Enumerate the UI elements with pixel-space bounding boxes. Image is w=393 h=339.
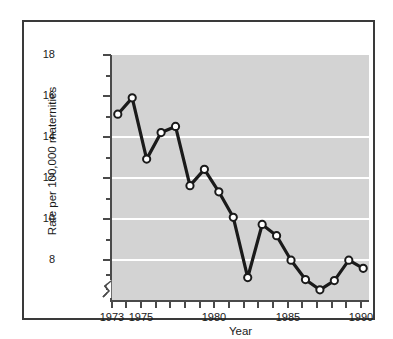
y-axis-title: Rate per 100,000 maternities [46, 76, 58, 246]
data-point-1974 [129, 94, 136, 101]
x-tick-label-1985: 1985 [265, 311, 311, 323]
y-tick-label-18: 18 [15, 49, 55, 60]
x-tick-1980 [213, 301, 215, 308]
x-tick-1986 [301, 301, 303, 308]
figure-canvas: 18 16 14 12 10 8 1973 1975 1 [0, 0, 393, 339]
chart-frame: 18 16 14 12 10 8 1973 1975 1 [22, 20, 375, 320]
data-point-1988 [331, 277, 338, 284]
y-tick-minor-17 [106, 75, 111, 77]
x-tick-1976 [155, 301, 157, 308]
x-tick-1985 [287, 301, 289, 308]
x-tick-label-1980: 1980 [191, 311, 237, 323]
y-tick-18 [103, 54, 111, 56]
x-tick-1975 [140, 301, 142, 308]
y-tick-minor-15 [106, 116, 111, 118]
plot-area [112, 55, 369, 300]
data-point-1976 [157, 129, 164, 136]
x-axis-title: Year [112, 325, 369, 337]
data-series-line [112, 55, 369, 300]
y-tick-16 [103, 95, 111, 97]
x-tick-1983 [257, 301, 259, 308]
data-point-1982 [244, 274, 251, 281]
x-tick-1987 [316, 301, 318, 308]
data-point-1979 [201, 166, 208, 173]
x-tick-1973 [111, 301, 113, 308]
y-tick-minor-11 [106, 198, 111, 200]
data-point-1978 [186, 182, 193, 189]
x-tick-1979 [199, 301, 201, 308]
data-point-1975 [143, 156, 150, 163]
y-tick-minor-9 [106, 239, 111, 241]
y-tick-14 [103, 136, 111, 138]
x-tick-1988 [331, 301, 333, 308]
data-point-1977 [172, 123, 179, 130]
data-point-1973 [114, 111, 121, 118]
data-point-1989 [345, 257, 352, 264]
series-markers [114, 94, 367, 293]
x-tick-label-1975: 1975 [118, 311, 164, 323]
x-tick-1974 [125, 301, 127, 308]
x-tick-1977 [169, 301, 171, 308]
y-tick-minor-7 [106, 274, 111, 276]
y-tick-12 [103, 177, 111, 179]
y-tick-minor-13 [106, 157, 111, 159]
x-tick-1989 [345, 301, 347, 308]
x-tick-1982 [243, 301, 245, 308]
data-point-1983 [259, 221, 266, 228]
x-tick-1990 [360, 301, 362, 308]
data-point-1986 [302, 276, 309, 283]
x-tick-1978 [184, 301, 186, 308]
series-polyline [118, 98, 363, 290]
data-point-1984 [273, 232, 280, 239]
y-axis-break-icon [102, 280, 116, 298]
x-tick-1981 [228, 301, 230, 308]
data-point-1985 [287, 257, 294, 264]
data-point-1990 [360, 265, 367, 272]
data-point-1980 [215, 188, 222, 195]
x-tick-1984 [272, 301, 274, 308]
data-point-1987 [316, 286, 323, 293]
x-tick-label-1990: 1990 [338, 311, 384, 323]
data-point-1981 [230, 214, 237, 221]
y-tick-label-8: 8 [15, 254, 55, 265]
y-tick-10 [103, 218, 111, 220]
y-tick-8 [103, 259, 111, 261]
